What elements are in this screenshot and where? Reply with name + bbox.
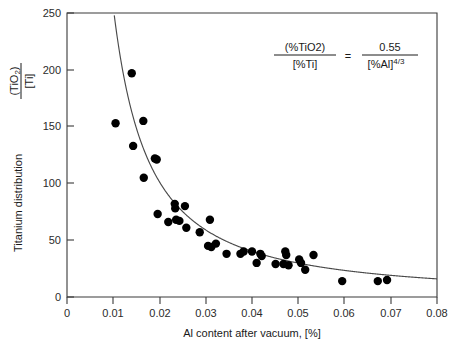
y-tick-labels: 0 50 100 150 200 250 [43,7,61,303]
data-point [129,142,137,150]
y-tick-label: 200 [43,64,61,76]
data-point [284,261,292,269]
data-point [212,239,220,247]
equilibrium-equation-annotation: (%TiO2) [%Ti] = 0.55 [%Al]4/3 [274,41,418,70]
data-point [111,119,119,127]
y-axis-fraction-numerator: (TiO [8,74,20,95]
data-point [258,252,266,260]
x-axis-title: Al content after vacuum, [%] [183,327,321,339]
equation-lhs-numerator: (%TiO2) [285,41,326,53]
data-point [206,216,214,224]
equation-equals-sign: = [345,50,351,62]
data-point [252,259,260,267]
data-point [175,217,183,225]
data-point [139,117,147,125]
data-point [153,155,161,163]
data-point [374,277,382,285]
x-axis-ticks [67,297,437,304]
x-tick-label: 0.07 [380,307,401,319]
x-tick-labels: 0 0.01 0.02 0.03 0.04 0.05 0.06 0.07 0.0… [64,307,448,319]
y-tick-label: 0 [55,291,61,303]
y-axis-fraction-denominator: [Ti] [23,74,35,89]
x-tick-label: 0.03 [195,307,216,319]
scatter-plot: 0 0.01 0.02 0.03 0.04 0.05 0.06 0.07 0.0… [0,0,455,344]
x-tick-label: 0.02 [149,307,170,319]
data-point [338,277,346,285]
y-axis-fraction-numerator-close: ) [8,66,20,70]
data-point [153,210,161,218]
data-point [222,250,230,258]
svg-text:[%Al]4/3: [%Al]4/3 [368,57,405,70]
data-point [309,251,317,259]
svg-text:(TiO2): (TiO2) [8,66,22,95]
x-tick-label: 0.06 [333,307,354,319]
chart-figure: 0 0.01 0.02 0.03 0.04 0.05 0.06 0.07 0.0… [0,0,455,344]
equation-rhs-numerator: 0.55 [379,41,400,53]
x-tick-label: 0.01 [102,307,123,319]
x-tick-label: 0.04 [241,307,262,319]
data-point [248,247,256,255]
x-tick-label: 0.05 [287,307,308,319]
y-tick-label: 50 [49,234,61,246]
data-point [301,266,309,274]
y-axis-title-fraction: (TiO2) [Ti] [8,63,35,99]
data-point [196,228,204,236]
data-point [164,218,172,226]
y-axis-ticks [67,13,74,297]
x-tick-label: 0.08 [426,307,447,319]
y-tick-label: 150 [43,120,61,132]
data-point [182,224,190,232]
y-tick-label: 100 [43,177,61,189]
equation-rhs-exponent: 4/3 [393,57,405,66]
data-point [383,276,391,284]
data-point [271,260,279,268]
y-tick-label: 250 [43,7,61,19]
data-point [128,69,136,77]
x-tick-label: 0 [64,307,70,319]
data-point [282,251,290,259]
equation-lhs-denominator: [%Ti] [293,58,318,70]
y-axis-title: Titanium distribution (TiO2) [Ti] [8,63,35,252]
y-axis-title-prefix: Titanium distribution [12,154,24,252]
equation-rhs-denominator: [%Al] [368,58,394,70]
data-point [239,247,247,255]
data-point [171,204,179,212]
data-point [140,174,148,182]
data-points-layer [111,69,391,285]
data-point [181,202,189,210]
